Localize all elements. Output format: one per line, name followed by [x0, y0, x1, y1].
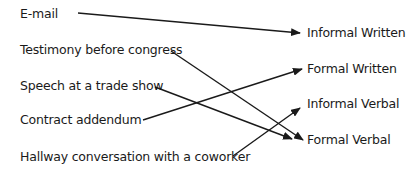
- left-item-label: Speech at a trade show: [20, 79, 163, 93]
- right-item-label: Formal Verbal: [307, 133, 390, 147]
- right-item-label: Informal Verbal: [307, 97, 399, 111]
- left-item-label: E-mail: [20, 7, 58, 21]
- left-item-label: Contract addendum: [20, 113, 142, 127]
- left-item-label: Testimony before congress: [20, 43, 182, 57]
- right-item-label: Informal Written: [307, 26, 406, 40]
- arrow-connector: [78, 13, 300, 33]
- arrow-connector: [171, 51, 303, 140]
- left-item-label: Hallway conversation with a coworker: [20, 150, 250, 164]
- right-item-label: Formal Written: [307, 62, 397, 76]
